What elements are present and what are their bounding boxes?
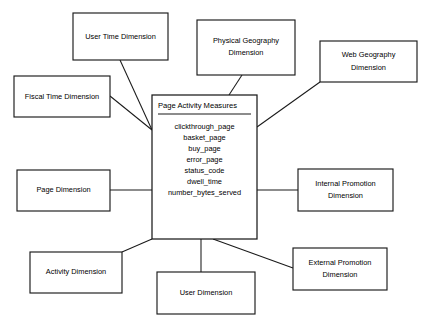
dimension-label: User Dimension [180, 288, 233, 297]
fact-measure: number_bytes_served [168, 188, 241, 197]
dimension-label: Page Dimension [36, 185, 90, 194]
dimension-label: User Time Dimension [85, 32, 156, 41]
dimension-web-geography[interactable]: Web Geography Dimension [320, 41, 417, 82]
dimension-label: Fiscal Time Dimension [25, 92, 99, 101]
dimension-label: External Promotion [309, 258, 372, 267]
dimension-activity[interactable]: Activity Dimension [30, 252, 122, 293]
fact-measure: clickthrough_page [175, 122, 235, 131]
dimension-label-line2: Dimension [328, 191, 363, 200]
schema-canvas: Page Activity Measures clickthrough_page… [0, 0, 427, 327]
connector-external-promotion [213, 239, 293, 268]
dimension-label-line2: Dimension [323, 270, 358, 279]
dimension-user-time[interactable]: User Time Dimension [73, 13, 168, 60]
fact-measure: dwell_time [187, 177, 222, 186]
fact-measure: basket_page [183, 133, 225, 142]
fact-measure: status_code [185, 166, 225, 175]
dimension-fiscal-time[interactable]: Fiscal Time Dimension [14, 76, 110, 117]
connector-web-geography [257, 82, 320, 127]
dimension-label: Internal Promotion [315, 179, 375, 188]
connector-user-time [120, 60, 152, 130]
fact-measure: error_page [186, 155, 222, 164]
connector-physical-geography [229, 75, 242, 95]
connector-fiscal-time [110, 96, 152, 130]
dimension-external-promotion[interactable]: External Promotion Dimension [293, 248, 387, 290]
fact-measure: buy_page [188, 144, 220, 153]
dimension-label-line2: Dimension [351, 63, 386, 72]
dimension-page[interactable]: Page Dimension [17, 170, 110, 211]
star-schema-diagram: Page Activity Measures clickthrough_page… [0, 0, 427, 327]
dimension-internal-promotion[interactable]: Internal Promotion Dimension [298, 169, 393, 211]
dimension-physical-geography[interactable]: Physical Geography Dimension [197, 20, 295, 75]
dimension-box[interactable] [320, 41, 417, 82]
dimension-label-line2: Dimension [229, 48, 264, 57]
dimension-label: Physical Geography [213, 36, 279, 45]
dimension-label: Web Geography [342, 50, 396, 59]
dimension-user[interactable]: User Dimension [157, 272, 255, 314]
fact-table-title: Page Activity Measures [158, 101, 237, 110]
dimension-label: Activity Dimension [46, 267, 106, 276]
fact-table[interactable]: Page Activity Measures clickthrough_page… [152, 95, 257, 239]
connector-activity [122, 239, 152, 252]
